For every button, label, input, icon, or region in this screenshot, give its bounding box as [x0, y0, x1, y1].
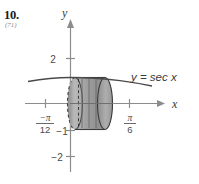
y-axis-arrow [67, 19, 74, 28]
y-tick-label-minus2: −2 [51, 152, 63, 163]
curve-label: y = sec x [130, 71, 178, 83]
x-tick-label-minus-pi-over-12: −π 12 [36, 113, 54, 135]
fraction-numerator: π [128, 113, 133, 123]
fraction-denominator: 12 [40, 124, 51, 135]
x-axis-label: x [171, 97, 178, 111]
x-tick-label-pi-over-6: π 6 [124, 113, 136, 135]
fraction-denominator: 6 [127, 124, 132, 135]
y-tick-label-minus1: −1 [56, 126, 68, 137]
y-tick-label-2: 2 [50, 54, 56, 65]
figure-page: 10. (71) [0, 0, 199, 184]
graph-figure: y x 2 −1 −2 −π 12 π 6 [0, 0, 199, 184]
x-axis-arrow [157, 100, 165, 107]
y-axis-label: y [61, 6, 68, 20]
fraction-numerator: −π [39, 113, 50, 123]
